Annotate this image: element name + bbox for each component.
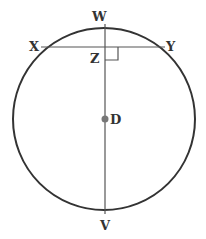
circle-diagram: W X Y Z D V [0, 0, 206, 239]
label-w: W [91, 9, 107, 24]
center-point-d [102, 116, 109, 123]
label-v: V [99, 218, 111, 233]
label-z: Z [90, 51, 100, 66]
label-y: Y [165, 39, 176, 54]
label-d: D [110, 112, 121, 127]
label-x: X [29, 39, 40, 54]
right-angle-marker [105, 47, 118, 60]
